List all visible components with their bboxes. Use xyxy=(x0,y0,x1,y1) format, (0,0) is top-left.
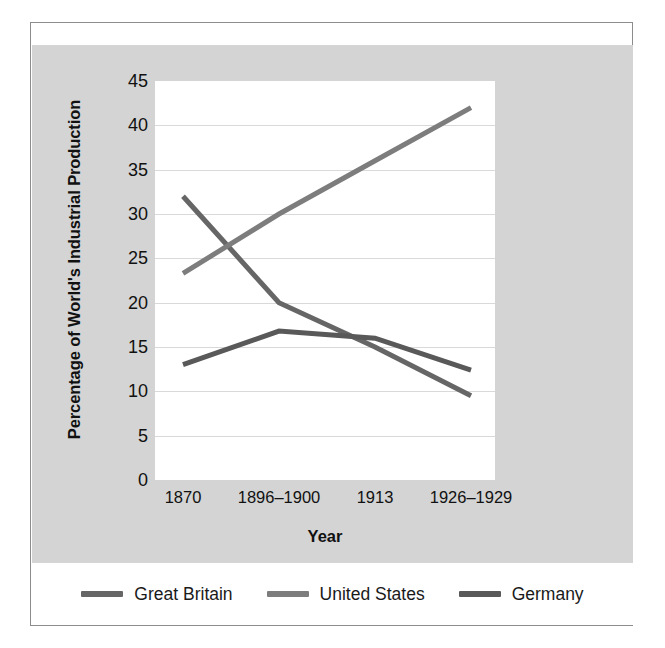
chart-panel: Percentage of World's Industrial Product… xyxy=(32,45,633,563)
y-axis-tick-label: 25 xyxy=(128,249,148,267)
x-axis-tick-label: 1926–1929 xyxy=(430,489,513,506)
plot-area xyxy=(155,81,495,480)
legend-item[interactable]: United States xyxy=(267,584,425,605)
x-axis-tick-labels: 18701896–190019131926–1929 xyxy=(155,489,495,515)
x-axis-tick-label: 1896–1900 xyxy=(238,489,321,506)
y-axis-tick-label: 15 xyxy=(128,338,148,356)
y-axis-tick-label: 20 xyxy=(128,294,148,312)
legend-label: Germany xyxy=(512,584,584,605)
legend-swatch-icon xyxy=(267,591,309,597)
x-axis-tick-label: 1913 xyxy=(357,489,394,506)
legend-swatch-icon xyxy=(459,591,501,597)
y-axis-tick-label: 45 xyxy=(128,72,148,90)
legend-label: United States xyxy=(320,584,425,605)
legend-item[interactable]: Germany xyxy=(459,584,584,605)
legend-label: Great Britain xyxy=(134,584,232,605)
chart-legend: Great BritainUnited StatesGermany xyxy=(32,563,633,625)
y-axis-tick-label: 10 xyxy=(128,382,148,400)
legend-swatch-icon xyxy=(81,591,123,597)
legend-item[interactable]: Great Britain xyxy=(81,584,232,605)
series-line xyxy=(183,331,471,370)
y-axis-tick-label: 35 xyxy=(128,161,148,179)
y-axis-tick-label: 0 xyxy=(138,471,148,489)
y-axis-tick-label: 30 xyxy=(128,205,148,223)
y-axis-tick-labels: 051015202530354045 xyxy=(92,81,148,480)
y-axis-tick-label: 40 xyxy=(128,116,148,134)
x-axis-title: Year xyxy=(155,527,495,546)
y-axis-tick-label: 5 xyxy=(138,427,148,445)
x-axis-tick-label: 1870 xyxy=(165,489,202,506)
series-line xyxy=(183,196,471,396)
y-axis-title: Percentage of World's Industrial Product… xyxy=(65,70,84,470)
chart-figure: Percentage of World's Industrial Product… xyxy=(30,22,633,626)
series-lines xyxy=(155,81,495,480)
series-line xyxy=(183,108,471,274)
